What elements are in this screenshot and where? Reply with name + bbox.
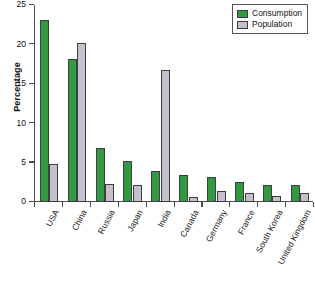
- y-axis-tick-label: 20: [17, 39, 29, 49]
- legend-swatch-population-icon: [237, 21, 248, 29]
- bar-population: [77, 43, 86, 202]
- legend-label-consumption: Consumption: [252, 8, 302, 19]
- y-axis-tick-label: 5: [21, 157, 29, 167]
- x-axis-category-label-text: Russia: [96, 208, 117, 236]
- y-axis-tick-label: 0: [21, 196, 29, 206]
- x-axis-category-label-text: Germany: [203, 208, 228, 244]
- plot-area: 0510152025: [34, 5, 313, 202]
- x-axis-category-label-text: USA: [44, 208, 61, 228]
- chart-legend: Consumption Population: [232, 4, 308, 34]
- x-axis-category-label-text: South Korea: [253, 208, 284, 254]
- x-axis-labels: USAChinaRussiaJapanIndiaCanadaGermanyFra…: [34, 208, 313, 287]
- x-axis-category-label-text: Japan: [125, 208, 145, 233]
- bar-chart: Percentage 0510152025 USAChinaRussiaJapa…: [0, 0, 315, 287]
- x-axis-category-label-text: France: [235, 208, 256, 236]
- bars-layer: [34, 5, 313, 202]
- x-axis-category-label-text: India: [155, 208, 172, 229]
- legend-item-population: Population: [237, 19, 302, 30]
- x-axis-category-label-text: China: [70, 208, 89, 232]
- legend-swatch-consumption-icon: [237, 10, 248, 18]
- legend-item-consumption: Consumption: [237, 8, 302, 19]
- bar-consumption: [68, 59, 77, 202]
- x-axis-tick: [34, 202, 35, 207]
- y-axis-tick-label: 15: [17, 78, 29, 88]
- bar-population: [161, 70, 170, 202]
- y-axis-tick-label: 10: [17, 118, 29, 128]
- bar-consumption: [40, 20, 49, 202]
- y-axis-tick-label: 25: [17, 0, 29, 9]
- x-axis-category-label-text: Canada: [178, 208, 201, 239]
- legend-label-population: Population: [252, 19, 292, 30]
